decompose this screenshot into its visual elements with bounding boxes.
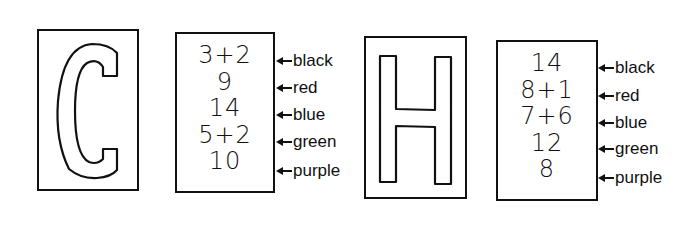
color-label-text: black bbox=[293, 51, 333, 71]
number-item: 12 bbox=[498, 130, 596, 157]
color-label-green: green bbox=[598, 139, 658, 159]
letter-card-c bbox=[37, 29, 139, 191]
color-label-text: black bbox=[615, 58, 655, 78]
number-item: 9 bbox=[177, 69, 273, 96]
arrow-left-icon bbox=[276, 56, 292, 66]
arrow-left-icon bbox=[276, 166, 292, 176]
color-label-green: green bbox=[276, 132, 336, 152]
color-label-red: red bbox=[598, 86, 640, 106]
letter-card-h bbox=[364, 36, 467, 199]
color-label-blue: blue bbox=[598, 113, 647, 133]
arrow-left-icon bbox=[598, 91, 614, 101]
number-item: 7+6 bbox=[498, 103, 596, 130]
color-label-black: black bbox=[598, 58, 655, 78]
color-label-text: red bbox=[293, 78, 318, 98]
number-item: 8+1 bbox=[498, 77, 596, 104]
arrow-left-icon bbox=[598, 63, 614, 73]
arrow-left-icon bbox=[276, 137, 292, 147]
arrow-left-icon bbox=[598, 144, 614, 154]
color-label-blue: blue bbox=[276, 105, 325, 125]
number-item: 8 bbox=[498, 156, 596, 183]
number-item: 14 bbox=[498, 50, 596, 77]
color-label-text: purple bbox=[615, 168, 662, 188]
color-label-text: green bbox=[293, 132, 336, 152]
number-card-1: 3+2 9 14 5+2 10 bbox=[175, 32, 275, 193]
number-item: 10 bbox=[177, 148, 273, 175]
color-label-text: purple bbox=[293, 161, 340, 181]
arrow-left-icon bbox=[276, 110, 292, 120]
number-item: 5+2 bbox=[177, 122, 273, 149]
number-item: 3+2 bbox=[177, 42, 273, 69]
color-label-black: black bbox=[276, 51, 333, 71]
number-item: 14 bbox=[177, 95, 273, 122]
color-label-purple: purple bbox=[276, 161, 340, 181]
number-card-2: 14 8+1 7+6 12 8 bbox=[496, 40, 598, 201]
color-label-red: red bbox=[276, 78, 318, 98]
color-label-purple: purple bbox=[598, 168, 662, 188]
arrow-left-icon bbox=[276, 83, 292, 93]
arrow-left-icon bbox=[598, 118, 614, 128]
color-label-text: red bbox=[615, 86, 640, 106]
arrow-left-icon bbox=[598, 173, 614, 183]
outlined-letter-h-icon bbox=[366, 38, 465, 197]
color-label-text: blue bbox=[615, 113, 647, 133]
color-label-text: blue bbox=[293, 105, 325, 125]
color-label-text: green bbox=[615, 139, 658, 159]
outlined-letter-c-icon bbox=[39, 31, 137, 189]
